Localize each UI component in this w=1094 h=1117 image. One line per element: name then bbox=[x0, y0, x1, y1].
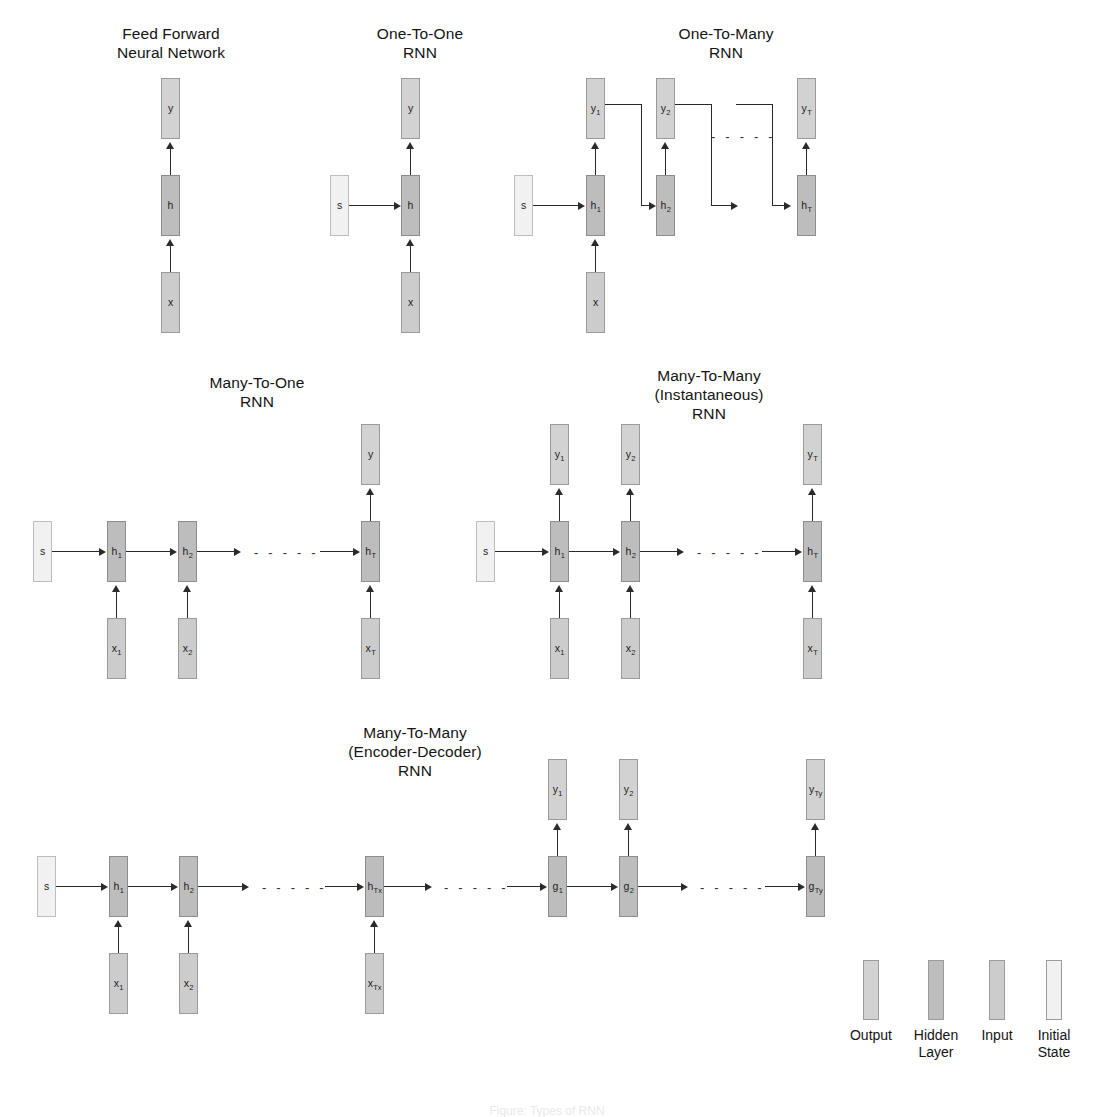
edge-m2mi-into-hT bbox=[762, 551, 796, 552]
node-label: s bbox=[337, 200, 342, 211]
node-encdec-decoder-2: g2 bbox=[619, 856, 638, 917]
node-o2m-output-2: y2 bbox=[656, 78, 675, 139]
edge-o2m-hT-to-yT bbox=[806, 148, 807, 175]
node-label: gTy bbox=[809, 881, 823, 892]
node-ff-hidden: h bbox=[161, 175, 180, 236]
arrowhead-right bbox=[101, 883, 108, 891]
node-encdec-output-Ty: yTy bbox=[806, 759, 825, 820]
rnn-types-figure: Feed Forward Neural Network y h x One-To… bbox=[0, 0, 1094, 1117]
edge-m2o-h2-onward bbox=[197, 551, 235, 552]
edge-m2o-x2-to-h2 bbox=[187, 591, 188, 618]
node-m2mi-output-1: y1 bbox=[550, 424, 569, 485]
node-m2mi-hidden-T: hT bbox=[803, 521, 822, 582]
arrowhead-up bbox=[808, 488, 816, 495]
node-ff-input: x bbox=[161, 272, 180, 333]
arrowhead-up bbox=[555, 488, 563, 495]
arrowhead-right bbox=[784, 202, 791, 210]
node-m2mi-output-T: yT bbox=[803, 424, 822, 485]
node-label: x bbox=[168, 297, 173, 308]
node-label: h bbox=[168, 200, 174, 211]
legend-swatch-input bbox=[989, 960, 1005, 1020]
node-encdec-input-2: x2 bbox=[179, 953, 198, 1014]
edge-o2m-yprev-feedback-down bbox=[772, 104, 773, 205]
node-o2m-hidden-1: h1 bbox=[586, 175, 605, 236]
node-label: x1 bbox=[114, 978, 123, 989]
node-ff-output: y bbox=[161, 78, 180, 139]
arrowhead-up bbox=[370, 920, 378, 927]
edge-o2m-h2-to-y2 bbox=[665, 148, 666, 175]
edge-o2o-h-to-y bbox=[410, 148, 411, 175]
arrowhead-up bbox=[366, 488, 374, 495]
edge-o2m-s-to-h1 bbox=[533, 205, 579, 206]
ellipsis-o2m: - - - - - bbox=[711, 130, 776, 143]
edge-o2o-s-to-h bbox=[349, 205, 395, 206]
edge-encdec-x1-to-h1 bbox=[118, 926, 119, 953]
edge-o2m-y2-feedback-right bbox=[711, 205, 733, 206]
node-encdec-initial-state: s bbox=[37, 856, 56, 917]
edge-m2o-xT-to-hT bbox=[370, 591, 371, 618]
arrowhead-up bbox=[591, 239, 599, 246]
arrowhead-right bbox=[542, 548, 549, 556]
node-label: g1 bbox=[552, 881, 562, 892]
node-label: y1 bbox=[553, 784, 562, 795]
node-encdec-output-2: y2 bbox=[619, 759, 638, 820]
edge-ff-x-to-h bbox=[170, 245, 171, 272]
edge-encdec-hTx-onward bbox=[384, 886, 426, 887]
node-label: y2 bbox=[626, 449, 635, 460]
node-o2o-input: x bbox=[401, 272, 420, 333]
node-encdec-output-1: y1 bbox=[548, 759, 567, 820]
ellipsis-encdec-2: - - - - - bbox=[444, 881, 509, 894]
arrowhead-right bbox=[578, 202, 585, 210]
legend: Output Hidden Layer Input Initial State bbox=[840, 960, 1094, 1100]
edge-m2mi-h1-to-h2 bbox=[569, 551, 614, 552]
ellipsis-m2mi: - - - - - bbox=[697, 546, 762, 559]
node-label: xT bbox=[808, 643, 818, 654]
node-label: s bbox=[44, 881, 49, 892]
ellipsis-encdec-1: - - - - - bbox=[262, 881, 327, 894]
ellipsis-m2o: - - - - - bbox=[254, 546, 319, 559]
arrowhead-right bbox=[649, 202, 656, 210]
arrowhead-right bbox=[353, 548, 360, 556]
node-m2mi-output-2: y2 bbox=[621, 424, 640, 485]
node-label: h1 bbox=[113, 881, 123, 892]
edge-o2o-x-to-h bbox=[410, 245, 411, 272]
node-m2mi-input-1: x1 bbox=[550, 618, 569, 679]
arrowhead-up bbox=[555, 585, 563, 592]
node-label: h1 bbox=[590, 200, 600, 211]
edge-encdec-into-hTx bbox=[325, 886, 358, 887]
node-label: yT bbox=[802, 103, 812, 114]
arrowhead-up bbox=[406, 239, 414, 246]
node-label: xTx bbox=[368, 978, 382, 989]
arrowhead-up bbox=[166, 142, 174, 149]
edge-m2mi-h1-to-y1 bbox=[559, 494, 560, 521]
panel-title-feed-forward: Feed Forward Neural Network bbox=[71, 24, 271, 62]
edge-m2o-h1-to-h2 bbox=[126, 551, 171, 552]
legend-label: Output bbox=[840, 1027, 902, 1044]
edge-m2o-x1-to-h1 bbox=[116, 591, 117, 618]
arrowhead-up bbox=[808, 585, 816, 592]
legend-label: Initial State bbox=[1024, 1027, 1084, 1061]
node-o2m-output-1: y1 bbox=[586, 78, 605, 139]
arrowhead-up bbox=[166, 239, 174, 246]
node-label: x2 bbox=[184, 978, 193, 989]
edge-o2m-yprev-feedback-top bbox=[736, 104, 773, 105]
node-o2m-hidden-2: h2 bbox=[656, 175, 675, 236]
node-encdec-hidden-Tx: hTx bbox=[365, 856, 384, 917]
node-m2o-hidden-2: h2 bbox=[178, 521, 197, 582]
arrowhead-right bbox=[170, 548, 177, 556]
edge-encdec-x2-to-h2 bbox=[188, 926, 189, 953]
edge-m2mi-x2-to-h2 bbox=[630, 591, 631, 618]
node-o2m-initial-state: s bbox=[514, 175, 533, 236]
edge-o2m-y1-feedback-top bbox=[605, 104, 642, 105]
node-label: x bbox=[408, 297, 413, 308]
node-label: hT bbox=[807, 546, 817, 557]
edge-encdec-g2-onward bbox=[638, 886, 682, 887]
node-m2o-input-1: x1 bbox=[107, 618, 126, 679]
node-m2o-input-T: xT bbox=[361, 618, 380, 679]
node-label: x2 bbox=[183, 643, 192, 654]
node-m2mi-hidden-1: h1 bbox=[550, 521, 569, 582]
arrowhead-up bbox=[114, 920, 122, 927]
legend-label: Hidden Layer bbox=[902, 1027, 970, 1061]
edge-m2mi-hT-to-yT bbox=[812, 494, 813, 521]
node-o2m-input: x bbox=[586, 272, 605, 333]
